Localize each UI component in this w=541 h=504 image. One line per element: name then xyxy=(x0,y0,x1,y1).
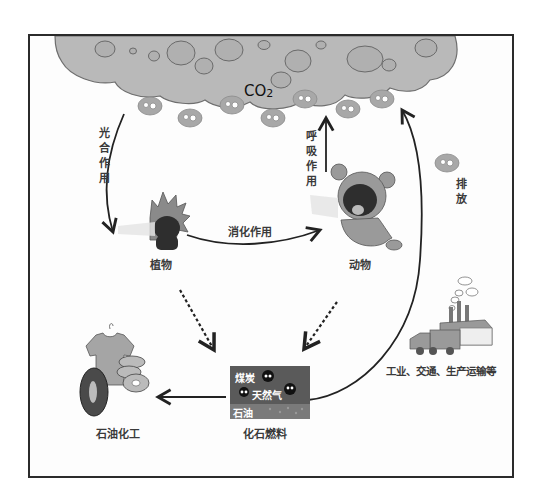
fossil-fuel-box: 煤炭 天然气 石油 xyxy=(230,366,310,419)
industry-icon xyxy=(410,277,492,355)
co2-label: CO2 xyxy=(244,82,273,100)
co2-subscript: 2 xyxy=(266,87,273,100)
digestion-label: 消化作用 xyxy=(228,223,272,239)
fossil-fuel-label: 化石燃料 xyxy=(243,425,287,441)
animal-to-fuel-arrow xyxy=(304,302,337,349)
plant-to-fuel-arrow xyxy=(180,290,214,350)
petrochemical-products-icon xyxy=(80,324,149,416)
co2-label-text: CO xyxy=(244,82,266,100)
emission-label: 排放 xyxy=(452,178,468,208)
industry-label: 工业、交通、生产运输等 xyxy=(386,363,496,378)
coal-label: 煤炭 xyxy=(235,370,255,385)
plant-character-icon xyxy=(118,192,190,250)
petrochemical-label: 石油化工 xyxy=(96,425,140,441)
oil-label: 石油 xyxy=(233,405,253,420)
natural-gas-label: 天然气 xyxy=(252,387,282,402)
animal-label: 动物 xyxy=(349,256,371,272)
flow-arrows xyxy=(107,110,422,400)
emission-arrow xyxy=(308,110,422,400)
animal-character-icon xyxy=(310,164,402,250)
dashed-arrows xyxy=(180,290,337,350)
plant-label: 植物 xyxy=(150,256,172,272)
photosynthesis-label: 光合作用 xyxy=(95,127,111,187)
respiration-label: 呼吸作用 xyxy=(302,130,318,190)
